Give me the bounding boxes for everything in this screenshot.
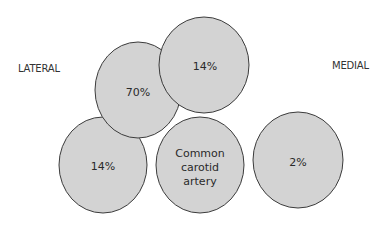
circle-bottom-left-label: 14% <box>91 160 115 173</box>
circle-right-label: 2% <box>289 156 306 169</box>
common-carotid-label-line1: Common <box>175 147 225 160</box>
circle-upper-left-label: 70% <box>126 86 150 99</box>
carotid-position-diagram: 14% Common carotid artery 70% 14% 2% <box>0 0 387 228</box>
circle-right: 2% <box>253 112 343 208</box>
circle-upper-right: 14% <box>159 17 249 113</box>
common-carotid-label-line2: carotid <box>181 161 219 174</box>
circle-common-carotid: Common carotid artery <box>156 117 244 213</box>
common-carotid-label-line3: artery <box>183 175 217 188</box>
circle-upper-right-label: 14% <box>193 60 217 73</box>
